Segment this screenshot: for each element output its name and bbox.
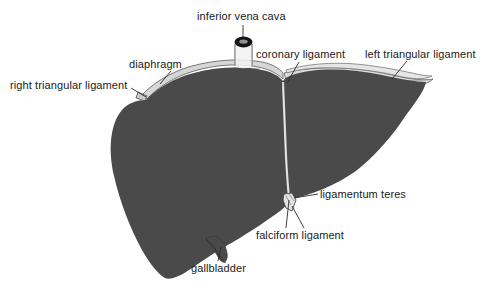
liver-diagram-svg: [0, 0, 487, 292]
label-inferior-vena-cava: inferior vena cava: [197, 10, 286, 22]
label-right-triangular-ligament: right triangular ligament: [10, 79, 127, 91]
label-left-triangular-ligament: left triangular ligament: [365, 48, 476, 60]
label-ligamentum-teres: ligamentum teres: [320, 188, 406, 200]
anatomy-figure: inferior vena cava diaphragm right trian…: [0, 0, 487, 292]
label-gallbladder: gallbladder: [191, 262, 246, 274]
vena-cava-tube-wall: [235, 44, 252, 68]
label-diaphragm: diaphragm: [129, 58, 182, 70]
liver-body: [111, 68, 426, 279]
vena-cava-ring-inner: [239, 39, 247, 43]
label-falciform-ligament: falciform ligament: [256, 229, 344, 241]
label-coronary-ligament: coronary ligament: [256, 48, 345, 60]
leader-falciform-ligament-b: [292, 206, 304, 228]
